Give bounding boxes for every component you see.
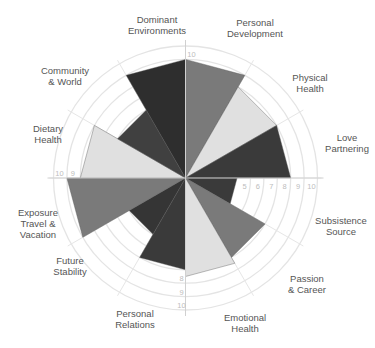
category-label: Community & World [41,65,89,87]
tick-label: 10 [55,169,63,178]
category-label: Physical Health [292,72,327,94]
tick-label: 8 [283,182,287,191]
category-label: Dietary Health [33,123,63,145]
tick-label: 5 [242,182,246,191]
category-label: Exposure Travel & Vacation [18,207,58,240]
tick-label: 10 [177,301,185,310]
tick-label: 6 [256,182,260,191]
category-label: Subsistence Source [315,215,367,237]
category-label: Future Stability [53,255,86,277]
tick-label: 8 [179,274,183,283]
tick-label: 10 [187,50,195,59]
polar-area-chart: 5678910108910109 [0,0,375,348]
category-label: Personal Development [227,17,283,39]
tick-label: 9 [179,288,183,297]
category-label: Love Partnering [325,132,369,154]
category-label: Passion & Career [288,273,326,295]
tick-label: 7 [269,182,273,191]
category-label: Dominant Environments [128,14,186,36]
data-wedges [67,59,291,276]
tick-label: 9 [71,169,75,178]
category-label: Personal Relations [115,308,155,330]
category-label: Emotional Health [224,312,266,334]
tick-label: 9 [296,182,300,191]
tick-label: 10 [307,182,315,191]
